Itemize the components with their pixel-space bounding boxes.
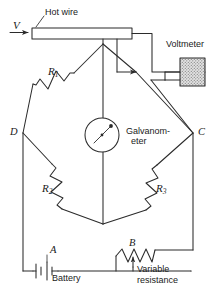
- node-d-label: D: [10, 126, 18, 137]
- resistor-r1-subscript: 1: [55, 70, 59, 79]
- circuit-diagram-figure: V Hot wire Voltmeter R1 R2 R3 Galvanom- …: [0, 0, 216, 300]
- wire-voltmeter-terminals: [151, 72, 180, 80]
- node-b-label: B: [129, 237, 135, 248]
- voltmeter-label: Voltmeter: [166, 40, 204, 50]
- wire-hotwire-to-bridge-junction: [117, 39, 136, 72]
- resistor-r1-label: R1: [48, 66, 58, 79]
- resistor-r3-subscript: 3: [163, 187, 167, 196]
- hot-wire-label: Hot wire: [45, 8, 78, 18]
- resistor-r2-symbol: R: [42, 182, 49, 194]
- node-c-label: C: [198, 126, 205, 137]
- hot-wire-leader: [36, 16, 44, 27]
- battery-label: Battery: [52, 274, 81, 284]
- voltmeter-body: [180, 58, 205, 86]
- bridge-arm-top-left: [23, 44, 103, 133]
- resistor-r3-label: R3: [156, 183, 166, 196]
- node-a-label: A: [50, 244, 56, 255]
- bridge-arm-bottom-right: [103, 133, 193, 224]
- resistor-r3-symbol: R: [156, 182, 163, 194]
- resistor-r2-subscript: 2: [49, 187, 53, 196]
- variable-resistance-label-line1: Variable: [137, 265, 169, 275]
- galvanometer-label-line2: eter: [131, 137, 147, 147]
- supply-voltage-label: V: [13, 20, 20, 32]
- resistor-r2-label: R2: [42, 183, 52, 196]
- outer-loop-wires: [23, 133, 193, 271]
- hot-wire-element: [32, 28, 132, 39]
- variable-resistance-label-line2: resistance: [137, 276, 178, 286]
- resistor-r1-symbol: R: [48, 65, 55, 77]
